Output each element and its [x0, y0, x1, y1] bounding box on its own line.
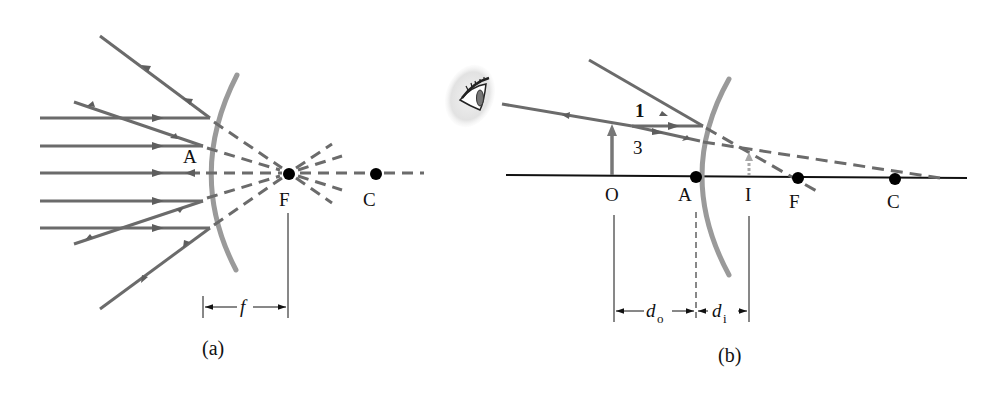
- object-distance-label: d o: [646, 300, 664, 326]
- caption-b: (b): [718, 344, 741, 367]
- convex-mirror-diagram: A F C f (a): [0, 0, 1003, 393]
- panel-b: 1 3 O A I F C d o d i (b): [437, 58, 967, 367]
- rays-b: [502, 60, 703, 141]
- svg-text:d: d: [712, 300, 722, 321]
- object-label: O: [605, 184, 619, 205]
- svg-text:i: i: [723, 311, 727, 326]
- eye-icon: [437, 58, 504, 135]
- incident-rays-a: [40, 118, 210, 228]
- image-arrow: [745, 152, 753, 176]
- svg-text:d: d: [646, 300, 656, 321]
- focal-point-b: [792, 172, 804, 184]
- panel-a: A F C f (a): [40, 36, 424, 360]
- focal-length-label: f: [240, 296, 248, 317]
- vertex-label-b: A: [678, 184, 692, 205]
- focal-point-a: [283, 168, 295, 180]
- center-label-a: C: [363, 189, 376, 210]
- focal-point-label-b: F: [789, 191, 800, 212]
- ray-3-label: 3: [633, 137, 643, 158]
- image-label: I: [745, 184, 751, 205]
- vertex-label-a: A: [183, 146, 197, 167]
- focal-length-dimension: [203, 213, 288, 318]
- virtual-rays-a: [206, 122, 424, 225]
- center-label-b: C: [887, 191, 900, 212]
- distance-dimensions: [614, 212, 749, 322]
- center-point-a: [370, 168, 382, 180]
- caption-a: (a): [202, 337, 224, 360]
- virtual-rays-b: [703, 128, 940, 193]
- image-distance-label: d i: [712, 300, 727, 326]
- focal-point-label-a: F: [279, 189, 290, 210]
- svg-text:o: o: [657, 311, 664, 326]
- vertex-point-b: [690, 171, 702, 183]
- object-arrow: [607, 124, 617, 175]
- center-point-b: [889, 173, 901, 185]
- ray-1-label: 1: [635, 100, 645, 121]
